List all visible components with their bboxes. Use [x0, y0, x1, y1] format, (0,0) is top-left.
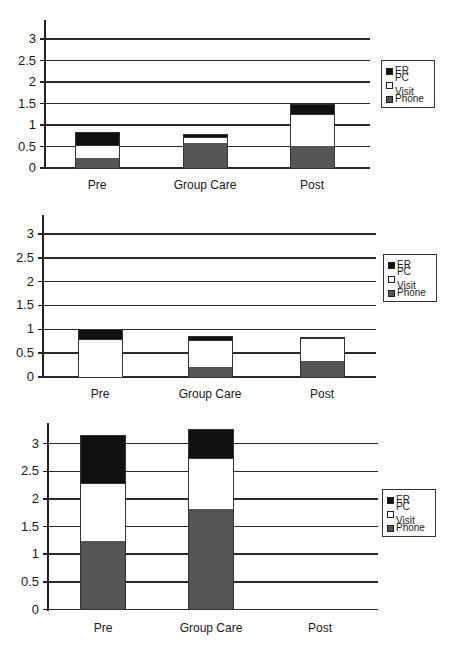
y-tick-label: 2.5: [9, 464, 39, 478]
bar-segment-phone: [291, 146, 334, 168]
bar-group-care: [188, 429, 234, 611]
x-category-label: Post: [262, 178, 362, 192]
y-tick-mark: [38, 233, 43, 235]
legend-swatch-icon: [387, 497, 394, 504]
bar-segment-pc: [189, 458, 233, 510]
legend-swatch-icon: [386, 68, 393, 75]
y-tick-label: 0: [4, 370, 34, 384]
y-tick-mark: [38, 305, 43, 307]
bar-segment-phone: [81, 541, 125, 610]
gridline: [42, 257, 376, 259]
legend-swatch-icon: [386, 82, 393, 89]
y-tick-label: 1.5: [9, 520, 39, 534]
bar-segment-er: [291, 105, 334, 114]
y-tick-mark: [40, 146, 45, 148]
bar-segment-pc: [81, 483, 125, 541]
y-tick-mark: [40, 38, 45, 40]
legend-label: Phone: [395, 92, 424, 106]
bar-pre: [75, 132, 120, 169]
bar-pre: [80, 435, 126, 611]
bar-segment-pc: [301, 338, 344, 361]
bar-segment-phone: [184, 143, 227, 168]
legend: ERPC VisitPhone: [382, 489, 436, 537]
x-category-label: Group Care: [160, 387, 260, 401]
gridline: [44, 81, 370, 83]
y-tick-label: 0.5: [6, 140, 36, 154]
y-tick-mark: [40, 60, 45, 62]
bar-group-care: [188, 336, 233, 378]
y-tick-mark: [38, 257, 43, 259]
y-tick-mark: [43, 553, 48, 555]
y-tick-label: 1.5: [6, 97, 36, 111]
legend-swatch-icon: [387, 525, 394, 532]
x-category-label: Group Care: [161, 621, 261, 635]
legend-swatch-icon: [388, 276, 395, 283]
y-tick-mark: [38, 352, 43, 354]
bar-segment-pc: [76, 145, 119, 158]
x-category-label: Pre: [53, 621, 153, 635]
y-tick-mark: [43, 471, 48, 473]
x-category-label: Pre: [50, 387, 150, 401]
legend-swatch-icon: [386, 96, 393, 103]
y-tick-mark: [38, 376, 43, 378]
gridline: [44, 38, 370, 40]
y-tick-label: 3: [4, 227, 34, 241]
gridline: [44, 60, 370, 62]
bar-segment-phone: [301, 361, 344, 377]
x-category-label: Group Care: [155, 178, 255, 192]
y-tick-mark: [43, 609, 48, 611]
bar-group-care: [183, 134, 228, 169]
y-tick-mark: [43, 498, 48, 500]
bar-segment-phone: [189, 367, 232, 377]
legend-item: PC Visit: [388, 272, 432, 286]
legend-item: Phone: [387, 521, 431, 535]
y-tick-mark: [43, 581, 48, 583]
bar-segment-er: [79, 330, 122, 339]
legend-swatch-icon: [388, 290, 395, 297]
legend-item: Phone: [388, 286, 432, 300]
legend: ERPC VisitPhone: [383, 254, 437, 302]
y-tick-mark: [40, 81, 45, 83]
y-tick-mark: [38, 281, 43, 283]
bar-post: [300, 337, 345, 378]
gridline: [42, 281, 376, 283]
y-tick-label: 0.5: [4, 346, 34, 360]
gridline: [42, 233, 376, 235]
bar-pre: [78, 329, 123, 378]
legend-item: PC Visit: [386, 78, 430, 92]
gridline: [42, 305, 376, 307]
bar-segment-phone: [76, 158, 119, 168]
bar-segment-pc: [79, 339, 122, 377]
y-tick-label: 3: [9, 437, 39, 451]
y-tick-label: 1: [9, 547, 39, 561]
y-tick-label: 3: [6, 32, 36, 46]
y-tick-mark: [40, 124, 45, 126]
legend-label: Phone: [397, 286, 426, 300]
bar-segment-er: [76, 133, 119, 145]
y-tick-label: 1: [4, 322, 34, 336]
bar-segment-er: [81, 436, 125, 483]
y-tick-label: 0: [9, 603, 39, 617]
legend-item: Phone: [386, 92, 430, 106]
x-category-label: Pre: [47, 178, 147, 192]
legend-swatch-icon: [387, 511, 394, 518]
y-tick-label: 2.5: [4, 251, 34, 265]
y-tick-mark: [40, 167, 45, 169]
y-tick-mark: [43, 526, 48, 528]
legend-item: PC Visit: [387, 507, 431, 521]
legend-swatch-icon: [388, 262, 395, 269]
bar-post: [290, 104, 335, 169]
y-tick-label: 2.5: [6, 54, 36, 68]
y-tick-label: 2: [6, 75, 36, 89]
bar-segment-pc: [189, 340, 232, 367]
bar-segment-phone: [189, 509, 233, 609]
y-tick-mark: [38, 329, 43, 331]
legend: ERPC VisitPhone: [381, 60, 435, 108]
y-tick-label: 0: [6, 161, 36, 175]
x-category-label: Post: [270, 621, 370, 635]
legend-label: Phone: [396, 521, 425, 535]
y-tick-label: 1.5: [4, 298, 34, 312]
y-tick-label: 2: [4, 275, 34, 289]
bar-segment-er: [189, 430, 233, 458]
y-tick-label: 1: [6, 118, 36, 132]
